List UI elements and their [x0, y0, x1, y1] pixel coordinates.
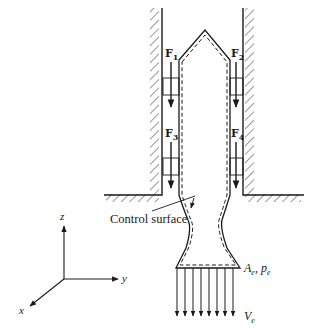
- force-label-f3: F3: [165, 128, 178, 141]
- force-arrow-f3: [163, 142, 179, 188]
- control-surface-label: Control surface: [110, 213, 187, 226]
- force-arrow-f1: [163, 62, 179, 107]
- diagram-canvas: [0, 0, 319, 335]
- force-label-f2: F2: [231, 48, 244, 61]
- exit-area-pressure-label: Ae, pe: [244, 262, 270, 277]
- exit-velocity-arrows: [177, 268, 233, 316]
- force-label-f1: F1: [165, 48, 178, 61]
- z-axis-label: z: [60, 211, 64, 222]
- right-wall: [243, 8, 304, 202]
- rocket-body: [176, 30, 240, 268]
- force-label-f4: F4: [231, 128, 244, 141]
- exit-velocity-label: Ve: [244, 310, 255, 325]
- control-surface: [180, 35, 236, 265]
- force-arrow-f4: [230, 142, 243, 188]
- y-axis-label: y: [122, 273, 127, 284]
- force-arrow-f2: [230, 62, 243, 107]
- coordinate-axes: [30, 226, 118, 306]
- x-axis-label: x: [19, 305, 24, 316]
- left-wall: [104, 8, 162, 202]
